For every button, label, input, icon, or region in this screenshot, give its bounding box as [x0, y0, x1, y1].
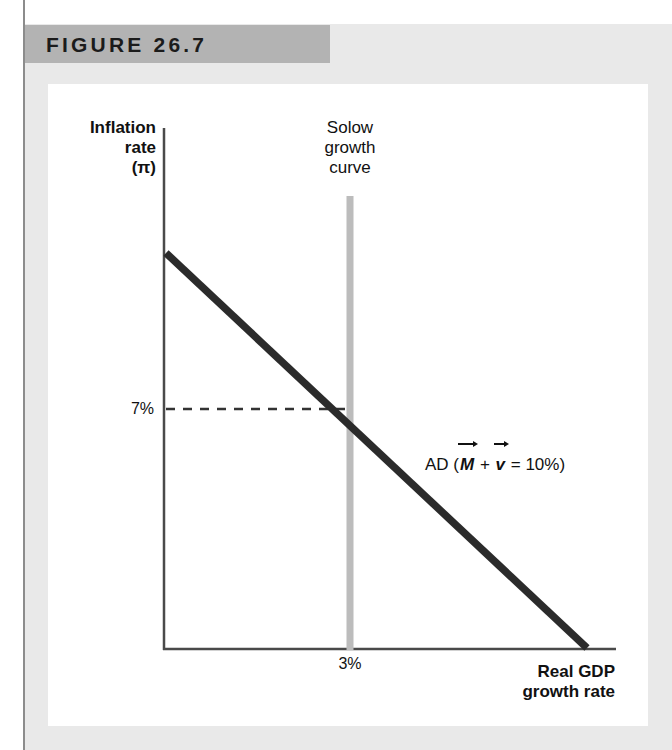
y-axis-tick-label-7-percent: 7%: [108, 400, 154, 419]
chart-graphic: [0, 0, 672, 750]
solow-growth-curve-label: Solow growth curve: [276, 118, 424, 178]
ad-label-prefix: AD (: [425, 455, 459, 474]
ad-curve: [166, 253, 587, 648]
x-axis-label: Real GDP growth rate: [400, 662, 615, 702]
y-axis-label: Inflation rate (π): [58, 118, 156, 178]
money-growth-vector-symbol: M: [459, 455, 475, 475]
velocity-growth-vector-symbol: v: [495, 455, 506, 475]
ad-curve-label: AD (M + v = 10%): [425, 455, 565, 475]
x-axis-tick-label-3-percent: 3%: [320, 655, 380, 674]
figure-page: FIGURE 26.7 Inflation rate (π) Solow gro…: [0, 0, 672, 750]
ad-label-plus: +: [475, 455, 494, 474]
ad-label-suffix: = 10%): [506, 455, 565, 474]
